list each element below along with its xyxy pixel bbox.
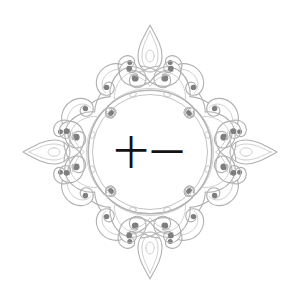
ornamental-medallion-graphic: .ln { fill: none; stroke: #b0b0b0; strok… (0, 0, 300, 307)
background (0, 0, 300, 307)
artwork-canvas: .ln { fill: none; stroke: #b0b0b0; strok… (0, 0, 300, 307)
